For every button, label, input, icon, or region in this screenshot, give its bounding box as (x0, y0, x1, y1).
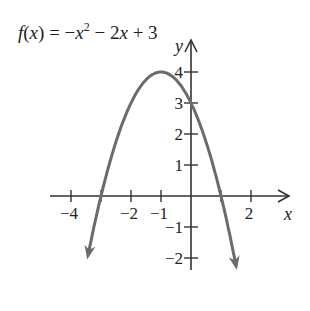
curve-arrows (85, 245, 240, 270)
y-tick-label: −1 (165, 218, 183, 237)
ticks (71, 72, 251, 258)
plot-area: −4−2−124321−1−2xy (0, 0, 310, 311)
y-tick-label: 2 (175, 125, 184, 144)
x-tick-label: −2 (120, 204, 138, 223)
tick-labels: −4−2−124321−1−2xy (60, 36, 292, 268)
y-tick-label: 1 (175, 156, 184, 175)
y-axis-label: y (173, 36, 183, 56)
x-tick-label: −4 (60, 204, 79, 223)
y-tick-label: −2 (165, 249, 183, 268)
y-tick-label: 3 (175, 94, 184, 113)
parabola-curve (88, 72, 235, 264)
x-axis-label: x (283, 204, 292, 224)
x-tick-label: 2 (245, 204, 254, 223)
